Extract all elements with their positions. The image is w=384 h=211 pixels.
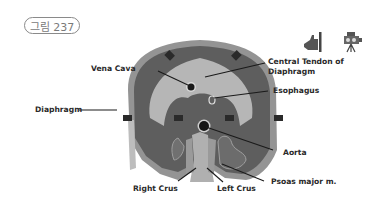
figure-stage: 그림 237: [0, 0, 384, 211]
label-aorta: Aorta: [283, 148, 307, 157]
label-esophagus: Esophagus: [273, 86, 319, 95]
label-psoas-major: Psoas major m.: [271, 177, 337, 186]
label-central-tendon-line1: Central Tendon of: [268, 57, 344, 66]
label-central-tendon-line2: Diaphragm: [268, 67, 315, 76]
label-vena-cava: Vena Cava: [91, 64, 136, 73]
label-left-crus: Left Crus: [217, 184, 256, 193]
label-right-crus: Right Crus: [133, 184, 178, 193]
label-diaphragm: Diaphragm: [35, 105, 82, 114]
